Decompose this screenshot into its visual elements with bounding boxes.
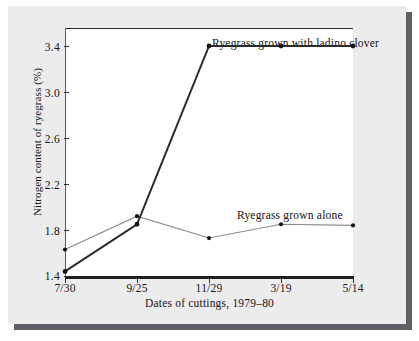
plate-shadow-right — [406, 12, 412, 330]
data-point — [207, 236, 211, 240]
data-point — [63, 247, 67, 251]
data-point — [135, 214, 139, 218]
data-point — [207, 44, 212, 49]
data-point — [279, 44, 284, 49]
figure-frame: 1.4 1.8 2.2 2.6 3.0 3.4 7/30 9/25 11/29 … — [0, 0, 419, 341]
figure-plate: 1.4 1.8 2.2 2.6 3.0 3.4 7/30 9/25 11/29 … — [8, 6, 406, 324]
data-point — [351, 223, 355, 227]
plate-shadow-bottom — [14, 324, 412, 330]
data-point — [135, 222, 140, 227]
line-chart: 1.4 1.8 2.2 2.6 3.0 3.4 7/30 9/25 11/29 … — [8, 6, 406, 324]
data-point — [351, 44, 356, 49]
series-path — [65, 216, 353, 249]
series-ryegrass-alone — [63, 214, 355, 252]
data-point — [63, 269, 68, 274]
data-point — [279, 222, 283, 226]
series-lines — [8, 6, 406, 324]
